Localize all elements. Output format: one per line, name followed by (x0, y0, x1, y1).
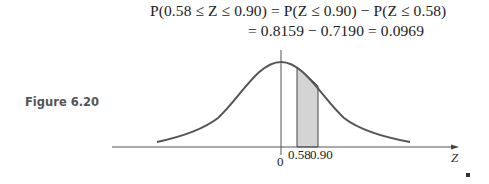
tick-0-90: 0.90 (310, 147, 333, 162)
shaded-area (297, 68, 318, 147)
normal-curve-figure: 0 0.58 0.90 Z (0, 0, 489, 184)
end-mark-icon (466, 173, 470, 177)
normal-curve (157, 62, 410, 142)
tick-0-58: 0.58 (288, 147, 311, 162)
z-axis-label: Z (451, 150, 459, 165)
tick-0: 0 (277, 154, 284, 169)
axis-arrow-icon (451, 145, 459, 150)
